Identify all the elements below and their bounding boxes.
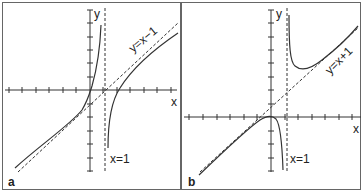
panel-b-curve-left xyxy=(199,116,283,175)
panel-a-curve-left xyxy=(15,25,101,168)
panel-b-y-axis xyxy=(268,10,274,172)
panel-a-vertical-asymptote-label: x=1 xyxy=(110,152,130,166)
panel-b-x-label: x xyxy=(353,122,359,136)
panel-b-vertical-asymptote-label: x=1 xyxy=(290,152,310,166)
panel-a-label: a xyxy=(8,175,15,189)
panel-b-y-label: y xyxy=(276,7,282,21)
panel-a-oblique-asymptote xyxy=(18,23,178,172)
panel-a: y x y=x−1 x=1 a xyxy=(3,3,181,190)
panel-b-label: b xyxy=(188,175,195,189)
panel-b: y x y=x+1 x=1 b xyxy=(182,3,362,190)
panel-b-oblique-asymptote-label: y=x+1 xyxy=(322,44,355,77)
figure: y x y=x−1 x=1 a xyxy=(0,0,363,193)
panel-a-y-label: y xyxy=(94,7,100,21)
panel-a-x-label: x xyxy=(171,95,177,109)
